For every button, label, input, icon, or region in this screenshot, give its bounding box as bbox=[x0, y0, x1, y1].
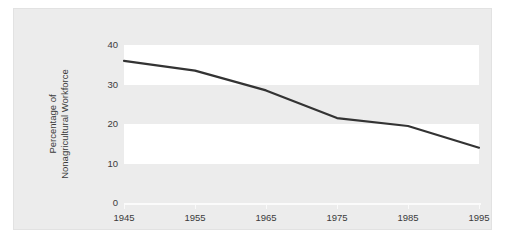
chart-figure: Percentage of Nonagricultural Workforce … bbox=[0, 0, 505, 238]
x-axis-tick-label: 1965 bbox=[244, 212, 288, 224]
x-axis-tick-mark bbox=[479, 205, 480, 209]
y-axis-tick-label: 0 bbox=[88, 198, 118, 208]
y-axis-tick-label: 40 bbox=[88, 40, 118, 50]
y-axis-tick-label: 10 bbox=[88, 159, 118, 169]
x-axis-tick-label: 1995 bbox=[457, 212, 501, 224]
x-axis-tick-mark bbox=[337, 205, 338, 209]
line-series-workforce bbox=[124, 45, 479, 203]
x-axis-tick-mark bbox=[195, 205, 196, 209]
x-axis-tick-mark bbox=[266, 205, 267, 209]
x-axis-tick-label: 1985 bbox=[386, 212, 430, 224]
x-axis-tick-label: 1955 bbox=[173, 212, 217, 224]
x-axis-tick-labels: 194519551965197519851995 bbox=[124, 212, 479, 226]
x-axis-line bbox=[124, 203, 481, 205]
y-axis-title: Percentage of Nonagricultural Workforce bbox=[47, 0, 75, 39]
y-axis-title-text: Percentage of Nonagricultural Workforce bbox=[47, 39, 71, 209]
x-axis-tick-mark bbox=[408, 205, 409, 209]
series-polyline bbox=[124, 61, 479, 148]
x-axis-tick-mark bbox=[124, 205, 125, 209]
chart-panel: Percentage of Nonagricultural Workforce … bbox=[14, 9, 491, 229]
x-axis-tick-label: 1945 bbox=[102, 212, 146, 224]
y-axis-tick-labels: 010203040 bbox=[84, 45, 118, 203]
plot-area bbox=[124, 45, 479, 203]
y-axis-tick-label: 30 bbox=[88, 80, 118, 90]
y-axis-tick-label: 20 bbox=[88, 119, 118, 129]
x-axis-tick-label: 1975 bbox=[315, 212, 359, 224]
